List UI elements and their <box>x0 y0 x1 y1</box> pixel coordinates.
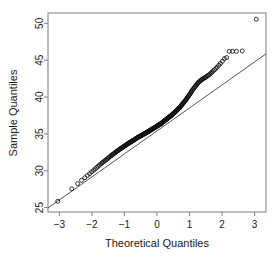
x-axis-title: Theoretical Quantiles <box>105 237 209 249</box>
y-tick-label: 35 <box>35 128 46 140</box>
x-tick-label: −3 <box>54 219 66 230</box>
y-axis-title: Sample Quantiles <box>7 69 19 156</box>
x-tick-label: 0 <box>154 219 160 230</box>
y-tick-label: 45 <box>35 54 46 66</box>
y-tick-label: 40 <box>35 91 46 103</box>
x-tick-label: −1 <box>119 219 131 230</box>
x-tick-label: 3 <box>252 219 258 230</box>
x-tick-label: −2 <box>86 219 98 230</box>
y-tick-label: 50 <box>35 17 46 29</box>
qq-plot-canvas: −3−2−10123 253035404550 Theoretical Quan… <box>0 0 280 260</box>
qq-plot-figure: −3−2−10123 253035404550 Theoretical Quan… <box>0 0 280 260</box>
x-tick-label: 2 <box>219 219 225 230</box>
y-tick-label: 25 <box>35 202 46 214</box>
y-tick-label: 30 <box>35 165 46 177</box>
x-tick-label: 1 <box>187 219 193 230</box>
